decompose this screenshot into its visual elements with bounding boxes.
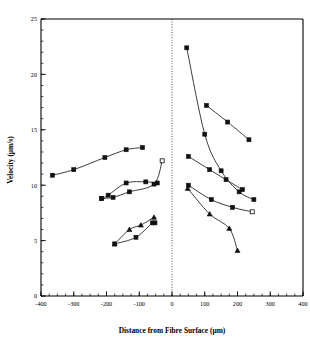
- data-point-marker: [134, 235, 138, 239]
- x-tick-label: 300: [266, 300, 275, 307]
- data-point-marker: [219, 169, 223, 173]
- y-tick-label: 15: [31, 126, 37, 133]
- data-point-marker: [152, 182, 156, 186]
- data-point-marker: [72, 168, 76, 172]
- data-point-marker: [106, 193, 110, 197]
- data-point-marker: [103, 156, 107, 160]
- x-tick-label: 0: [170, 300, 173, 307]
- data-point-marker: [250, 210, 254, 214]
- x-tick-label: 100: [200, 300, 209, 307]
- data-point-marker: [208, 168, 212, 172]
- y-tick-label: 10: [31, 182, 37, 189]
- data-point-marker: [252, 198, 256, 202]
- data-point-marker: [203, 132, 207, 136]
- data-point-marker: [124, 148, 128, 152]
- data-point-marker: [160, 159, 164, 163]
- x-tick-label: -300: [68, 300, 79, 307]
- data-point-marker: [209, 198, 213, 202]
- y-axis-title: Velocity (µm/s): [6, 136, 15, 184]
- data-point-marker: [153, 221, 157, 225]
- x-tick-label: -200: [101, 300, 112, 307]
- data-point-marker: [240, 188, 244, 192]
- data-point-marker: [100, 197, 104, 201]
- data-point-marker: [111, 195, 115, 199]
- data-point-marker: [127, 190, 131, 194]
- data-point-marker: [144, 180, 148, 184]
- y-tick-label: 25: [31, 15, 37, 22]
- x-tick-label: -100: [134, 300, 145, 307]
- velocity-vs-distance-figure: -400-300-200-10001002003004000510152025 …: [0, 0, 310, 341]
- data-point-marker: [50, 173, 54, 177]
- data-point-marker: [224, 178, 228, 182]
- y-tick-label: 20: [31, 71, 37, 78]
- data-point-marker: [185, 46, 189, 50]
- x-tick-label: 200: [233, 300, 242, 307]
- data-point-marker: [204, 103, 208, 107]
- y-tick-label: 5: [34, 237, 37, 244]
- data-point-marker: [113, 242, 117, 246]
- data-point-marker: [141, 146, 145, 150]
- data-point-marker: [231, 205, 235, 209]
- data-point-marker: [186, 154, 190, 158]
- chart-canvas: -400-300-200-10001002003004000510152025 …: [0, 0, 310, 341]
- data-point-marker: [247, 138, 251, 142]
- x-tick-label: -400: [35, 300, 46, 307]
- figure-background: [0, 0, 310, 341]
- x-axis-title: Distance from Fibre Surface (µm): [119, 326, 226, 335]
- y-tick-label: 0: [34, 292, 37, 299]
- data-point-marker: [124, 181, 128, 185]
- x-tick-label: 400: [298, 300, 307, 307]
- data-point-marker: [226, 120, 230, 124]
